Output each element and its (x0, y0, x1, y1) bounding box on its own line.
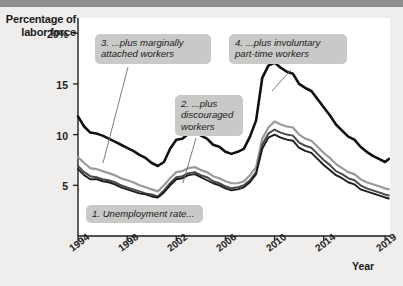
y-tick-label: 15 (30, 79, 68, 91)
callout-unemployment-rate: 1. Unemployment rate... (86, 205, 203, 223)
callout-leader-line (183, 138, 196, 183)
callout-marginally-attached: 3. ...plus marginally attached workers (95, 34, 211, 64)
data-series-line (78, 130, 389, 197)
callout-discouraged-workers: 2. ...plus discouraged workers (175, 95, 243, 136)
callout-leader-line (272, 70, 291, 91)
y-tick-marks (73, 33, 78, 185)
callout-involuntary-part-time: 4. ...plus involuntary part-time workers (229, 34, 347, 64)
figure-container: Percentage of labor force 5101520% 19941… (0, 7, 403, 286)
y-tick-label: 5 (30, 180, 68, 192)
y-tick-label: 10 (30, 130, 68, 142)
x-axis-title: Year (352, 260, 374, 272)
y-tick-label: 20% (30, 28, 68, 40)
callout-leader-line (103, 67, 128, 163)
y-axis-title-line1: Percentage of (4, 13, 76, 26)
